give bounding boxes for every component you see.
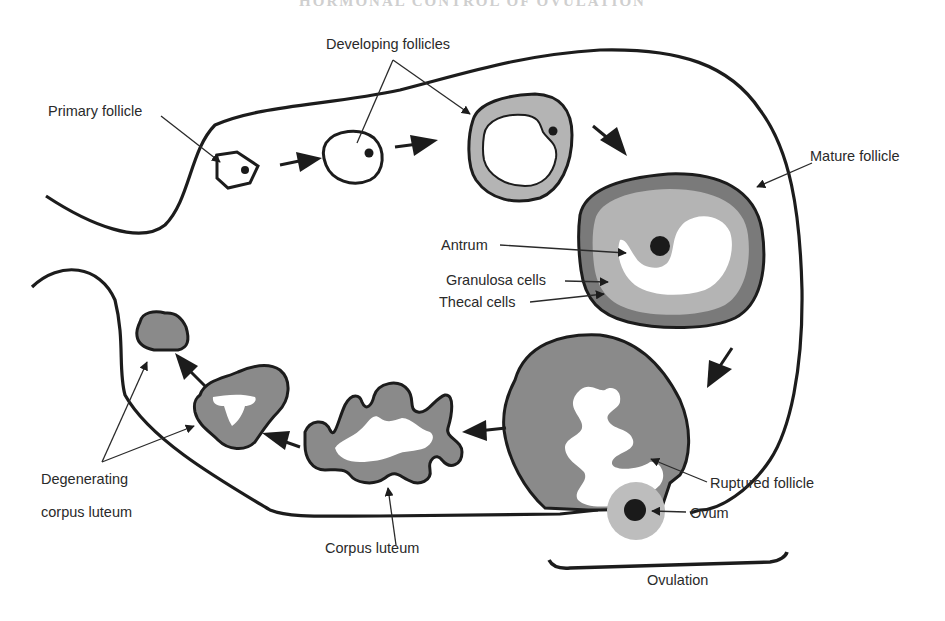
stage-arrow-5-icon	[462, 420, 506, 441]
label-degenerating-line1: Degenerating	[41, 472, 128, 487]
developing-follicle-small	[323, 131, 382, 183]
label-granulosa-cells: Granulosa cells	[446, 273, 546, 288]
label-ovum: Ovum	[690, 506, 729, 521]
corpus-luteum	[305, 383, 462, 483]
primary-follicle	[217, 152, 258, 188]
label-thecal-cells: Thecal cells	[439, 295, 516, 310]
stage-arrow-6-icon	[262, 431, 300, 450]
label-primary-follicle: Primary follicle	[48, 104, 142, 119]
ruptured-follicle	[504, 335, 689, 510]
label-degenerating-line2: corpus luteum	[41, 505, 132, 520]
mature-follicle	[579, 174, 764, 328]
diagram-canvas	[0, 0, 945, 621]
label-mature-follicle: Mature follicle	[810, 149, 899, 164]
label-developing-follicles: Developing follicles	[326, 37, 450, 52]
ovary-diagram: HORMONAL CONTROL OF OVULATION	[0, 0, 945, 621]
label-ovulation: Ovulation	[647, 573, 708, 588]
label-antrum: Antrum	[441, 238, 488, 253]
developing-follicle-large	[469, 94, 572, 201]
stage-arrow-3-icon	[593, 126, 627, 156]
ovulation-bracket	[549, 552, 787, 568]
label-ruptured-follicle: Ruptured follicle	[710, 476, 814, 491]
label-corpus-luteum: Corpus luteum	[325, 541, 419, 556]
stage-arrow-7-icon	[175, 353, 205, 386]
stage-arrow-4-icon	[707, 348, 732, 388]
stage-arrow-2-icon	[395, 135, 438, 156]
degenerating-corpus-luteum-2	[137, 312, 188, 350]
stage-arrow-1-icon	[280, 152, 322, 172]
